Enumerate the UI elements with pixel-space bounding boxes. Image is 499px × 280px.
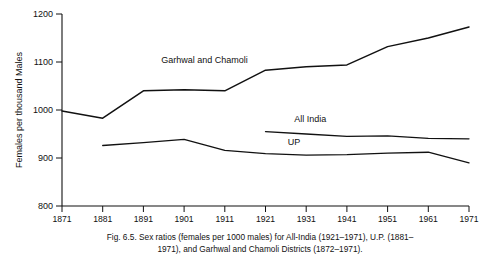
caption-line-2: 1971), and Garhwal and Chamoli Districts…: [60, 244, 460, 256]
x-tick-label: 1971: [459, 214, 478, 224]
x-axis-ticks: [62, 206, 469, 212]
x-tick-label: 1891: [134, 214, 153, 224]
figure-caption: Fig. 6.5. Sex ratios (females per 1000 m…: [60, 232, 460, 255]
y-tick-label: 1200: [33, 9, 53, 19]
sex-ratio-line-chart: 800 900 1000 1100 1200 Females per thous…: [0, 0, 499, 232]
x-tick-label: 1951: [378, 214, 397, 224]
y-axis-ticks: [56, 14, 62, 206]
series-label-all-india: All India: [294, 114, 326, 124]
y-tick-label: 800: [38, 201, 53, 211]
x-tick-label: 1921: [256, 214, 275, 224]
y-tick-label: 900: [38, 153, 53, 163]
x-tick-label: 1911: [216, 214, 235, 224]
y-tick-label: 1100: [34, 57, 53, 67]
chart-plot-area: 800 900 1000 1100 1200 Females per thous…: [0, 0, 499, 232]
x-tick-label: 1961: [419, 214, 438, 224]
y-tick-label: 1000: [33, 105, 53, 115]
x-tick-label: 1901: [175, 214, 194, 224]
series-line-up: [103, 139, 469, 163]
figure-container: 800 900 1000 1100 1200 Females per thous…: [0, 0, 499, 280]
y-axis-title: Females per thousand Males: [14, 51, 24, 168]
series-label-garhwal-and-chamoli: Garhwal and Chamoli: [161, 55, 248, 65]
y-axis-tick-labels: 800 900 1000 1100 1200: [33, 9, 53, 211]
x-axis-tick-labels: 1871 1881 1891 1901 1911 1921 1931 1941 …: [52, 214, 478, 224]
x-tick-label: 1931: [297, 214, 316, 224]
x-tick-label: 1941: [337, 214, 356, 224]
series-line-garhwal-and-chamoli: [62, 27, 469, 118]
series-label-up: UP: [288, 137, 301, 147]
x-tick-label: 1871: [52, 214, 71, 224]
caption-line-1: Fig. 6.5. Sex ratios (females per 1000 m…: [60, 232, 460, 244]
x-tick-label: 1881: [93, 214, 112, 224]
